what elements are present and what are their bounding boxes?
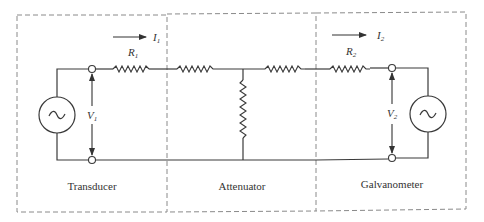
v1-label: V1: [87, 109, 97, 123]
resistor-series-1: [177, 66, 218, 72]
terminal-v1-bottom: [89, 157, 96, 164]
terminal-v1-top: [89, 66, 96, 73]
wire: [396, 132, 428, 158]
wire: [57, 133, 88, 160]
galvanometer-label: Galvanometer: [361, 178, 424, 190]
i2-label: I2: [376, 29, 385, 43]
resistor-r1: [113, 66, 149, 72]
v2-label: V2: [387, 107, 398, 121]
resistor-r2: [330, 66, 370, 72]
r1-label: R1: [127, 46, 138, 60]
circuit-diagram: V1 R1 I1 Transducer Attenuator R2 I2: [0, 0, 484, 222]
wire: [57, 69, 88, 97]
i1-label: I1: [152, 31, 160, 45]
wire: [396, 68, 428, 96]
wire: [316, 159, 388, 160]
attenuator-circuit: Attenuator: [177, 66, 330, 192]
galvanometer-circuit: R2 I2 V2 Galvanometer: [316, 29, 446, 190]
terminal-v2-top: [389, 65, 396, 72]
transducer-circuit: V1 R1 I1 Transducer: [39, 31, 316, 192]
resistor-shunt: [240, 80, 246, 138]
resistor-series-2: [265, 66, 305, 72]
r2-label: R2: [345, 45, 357, 59]
terminal-v2-bottom: [389, 155, 396, 162]
transducer-label: Transducer: [67, 180, 116, 192]
attenuator-label: Attenuator: [218, 180, 265, 192]
